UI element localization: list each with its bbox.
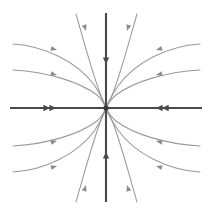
equilibrium-point-origin <box>103 105 108 110</box>
phase-portrait-canvas <box>0 0 212 214</box>
phase-portrait-figure <box>0 0 212 214</box>
